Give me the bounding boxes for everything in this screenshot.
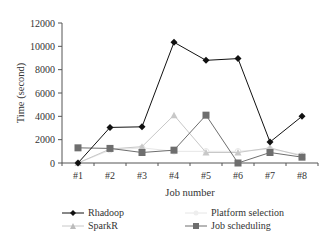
legend-label: Job scheduling — [211, 220, 271, 231]
y-tick-label: 8000 — [35, 64, 55, 75]
line-chart: 020004000600080001000012000#1#2#3#4#5#6#… — [0, 0, 328, 242]
x-tick-label: #2 — [105, 170, 115, 181]
x-tick-label: #1 — [73, 170, 83, 181]
x-tick-label: #5 — [201, 170, 211, 181]
data-point — [75, 144, 82, 151]
data-point — [139, 149, 146, 156]
legend-item-platform-selection: Platform selection — [185, 207, 284, 218]
x-tick-label: #4 — [169, 170, 179, 181]
legend-marker-square-icon — [185, 222, 207, 230]
legend-label: Rhadoop — [88, 207, 124, 218]
data-point — [171, 39, 178, 46]
y-tick-label: 10000 — [30, 41, 55, 52]
legend-marker-diamond-icon — [62, 209, 84, 217]
data-point — [235, 160, 242, 167]
data-point — [171, 147, 178, 154]
y-tick-label: 2000 — [35, 134, 55, 145]
data-point — [235, 55, 242, 62]
legend-item-rhadoop: Rhadoop — [62, 207, 124, 218]
y-tick-label: 0 — [50, 158, 55, 169]
y-tick-label: 6000 — [35, 88, 55, 99]
x-tick-label: #6 — [233, 170, 243, 181]
legend-label: SparkR — [88, 220, 118, 231]
y-axis-label: Time (second) — [15, 62, 27, 123]
data-point — [107, 145, 114, 152]
legend-item-sparkr: SparkR — [62, 220, 118, 231]
data-point — [171, 112, 178, 119]
x-tick-label: #3 — [137, 170, 147, 181]
legend-marker-triangle-icon — [62, 222, 84, 230]
data-point — [203, 112, 210, 119]
x-axis-label: Job number — [165, 187, 215, 198]
legend-label: Platform selection — [211, 207, 284, 218]
legend-marker-circle-icon — [185, 209, 207, 217]
x-tick-label: #7 — [265, 170, 275, 181]
series-line-rhadoop — [78, 42, 302, 163]
y-tick-label: 4000 — [35, 111, 55, 122]
y-tick-label: 12000 — [30, 18, 55, 29]
data-point — [299, 154, 306, 161]
data-point — [203, 57, 210, 64]
legend-item-job-scheduling: Job scheduling — [185, 220, 271, 231]
data-point — [267, 149, 274, 156]
x-tick-label: #8 — [297, 170, 307, 181]
data-point — [139, 123, 146, 130]
